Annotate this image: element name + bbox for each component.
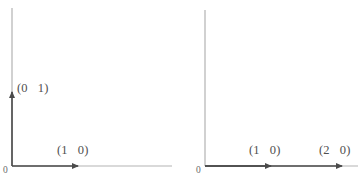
- vector-1-0-label: (1 0): [249, 144, 281, 157]
- vector-2-0-label: (2 0): [319, 144, 351, 157]
- figure-canvas: (0 1) (1 0) 0 (1 0) (2 0) 0: [0, 0, 364, 185]
- left-origin-label: 0: [3, 166, 8, 176]
- right-panel-axes: [182, 0, 364, 185]
- bottom-caption: [26, 178, 326, 185]
- unit-vector-e1-label: (1 0): [57, 144, 89, 157]
- left-panel: (0 1) (1 0) 0: [0, 0, 182, 185]
- right-origin-label: 0: [196, 166, 201, 176]
- unit-vector-e2-label: (0 1): [17, 82, 49, 95]
- right-panel: (1 0) (2 0) 0: [182, 0, 364, 185]
